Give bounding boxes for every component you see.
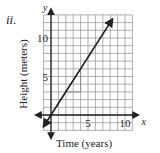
x-axis-label: Time (years) — [56, 137, 112, 149]
y-tick-label: 5 — [43, 71, 49, 83]
x-tick-label: 5 — [85, 117, 91, 129]
y-axis-label: Height (meters) — [17, 29, 29, 119]
y-tick-label: 10 — [37, 32, 49, 44]
x-axis-var-label: x — [140, 116, 146, 127]
series-line — [44, 19, 113, 126]
y-axis-var-label: y — [42, 2, 48, 13]
x-tick-label: 10 — [120, 117, 132, 129]
